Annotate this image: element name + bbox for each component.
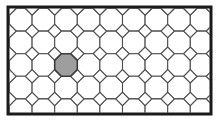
tiling-canvas	[0, 0, 219, 122]
figure-root: Truncated square tiling with one highlig…	[0, 0, 219, 122]
highlight-layer	[55, 54, 78, 77]
highlighted-octagon-cell	[55, 54, 78, 77]
tiling-pattern	[0, 0, 219, 122]
